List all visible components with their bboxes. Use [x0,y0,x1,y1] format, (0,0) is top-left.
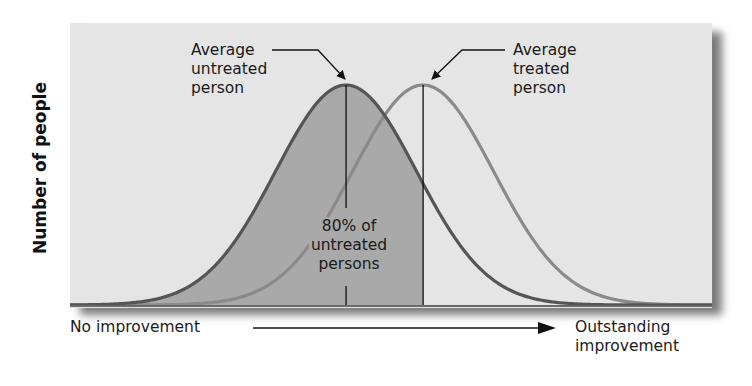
treated-label: Average treated person [513,41,577,98]
x-axis-right-label-line: Outstanding [575,318,679,337]
percent-label-line: 80% of [309,217,389,236]
effect-size-diagram: Number of people Average untreated perso… [0,0,752,386]
untreated-label-line: Average [191,41,267,60]
percent-label-line: persons [309,255,389,274]
percent-label: 80% of untreated persons [309,217,389,274]
treated-label-line: treated [513,60,577,79]
x-axis-arrowhead-icon [538,322,556,334]
untreated-label: Average untreated person [191,41,267,98]
treated-label-line: person [513,79,577,98]
x-axis-left-label: No improvement [70,318,200,337]
treated-label-line: Average [513,41,577,60]
x-axis-right-label-line: improvement [575,337,679,356]
x-axis-right-label: Outstanding improvement [575,318,679,356]
y-axis-label: Number of people [30,82,50,254]
untreated-label-line: untreated [191,60,267,79]
untreated-label-line: person [191,79,267,98]
percent-label-line: untreated [309,236,389,255]
